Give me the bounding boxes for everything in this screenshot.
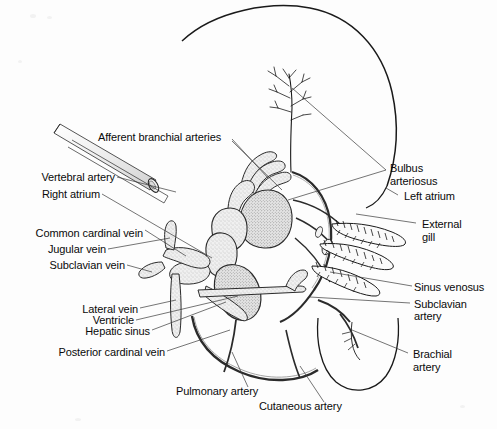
label-subclavian-artery-line1: Subclavian (414, 298, 467, 310)
label-subclavian-vein: Subclavian vein (0, 259, 125, 271)
label-external-gill-line2: gill (422, 231, 435, 243)
label-hepatic-sinus: Hepatic sinus (0, 325, 150, 337)
lateral-vein (171, 274, 182, 337)
leader-external-gill (356, 214, 416, 223)
label-bulbus-arteriosus-line2: arteriosus (390, 175, 437, 187)
jugular-vein (165, 221, 177, 250)
label-external-gill-line1: External (422, 218, 462, 230)
vascular-complex (139, 152, 358, 380)
body-contour-lower (366, 186, 387, 208)
label-left-atrium: Left atrium (404, 190, 455, 202)
posterior-cardinal-vein (192, 316, 318, 380)
body-outline-group (182, 6, 399, 390)
leader-hepatic-sinus (152, 302, 226, 330)
bulbus-arteriosus (240, 190, 292, 248)
label-posterior-cardinal-vein: Posterior cardinal vein (0, 346, 165, 358)
subclavian-artery (318, 300, 350, 322)
leader-right-atrium (102, 194, 212, 258)
label-right-atrium: Right atrium (0, 188, 100, 200)
common-cardinal-vein (163, 248, 210, 269)
leader-cutaneous-artery (300, 366, 324, 402)
label-bulbus-arteriosus-line1: Bulbus (390, 162, 423, 174)
subclavian-vein (139, 262, 165, 278)
label-brachial-artery-line1: Brachial (413, 348, 452, 360)
leader-bulbus-arteriosus-2 (288, 170, 386, 200)
posterior-cardinal-vein-highlight (194, 317, 316, 377)
label-jugular-vein: Jugular vein (0, 243, 106, 255)
leader-bulbus-arteriosus (292, 88, 386, 170)
cutaneous-artery (286, 330, 300, 378)
label-brachial-artery-line2: artery (413, 361, 441, 373)
leader-brachial-artery (352, 330, 408, 353)
leader-left-atrium (386, 188, 398, 195)
figure-canvas: Afferent branchial arteries Vertebral ar… (0, 0, 497, 429)
label-sinus-venosus: Sinus venosus (414, 281, 484, 293)
label-cutaneous-artery: Cutaneous artery (259, 400, 342, 412)
forelimb-outline (318, 318, 399, 390)
label-pulmonary-artery: Pulmonary artery (176, 385, 258, 397)
label-afferent-branchial-arteries: Afferent branchial arteries (98, 131, 221, 143)
label-vertebral-artery: Vertebral artery (0, 171, 115, 183)
leader-jugular-vein (108, 238, 170, 249)
body-outline-arc (182, 6, 396, 186)
label-common-cardinal-vein: Common cardinal vein (0, 227, 143, 239)
label-subclavian-artery-line2: artery (414, 310, 442, 322)
